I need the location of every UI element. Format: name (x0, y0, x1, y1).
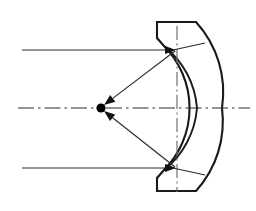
diagram-canvas (0, 0, 256, 211)
reflected-ray-top (113, 51, 175, 98)
focal-point (96, 103, 105, 112)
reflected-ray-bottom (113, 118, 175, 167)
reflected-ray-bottom-arrowhead (104, 111, 115, 121)
ray-diagram-figure (0, 0, 256, 211)
reflected-ray-top-arrowhead (104, 95, 115, 105)
